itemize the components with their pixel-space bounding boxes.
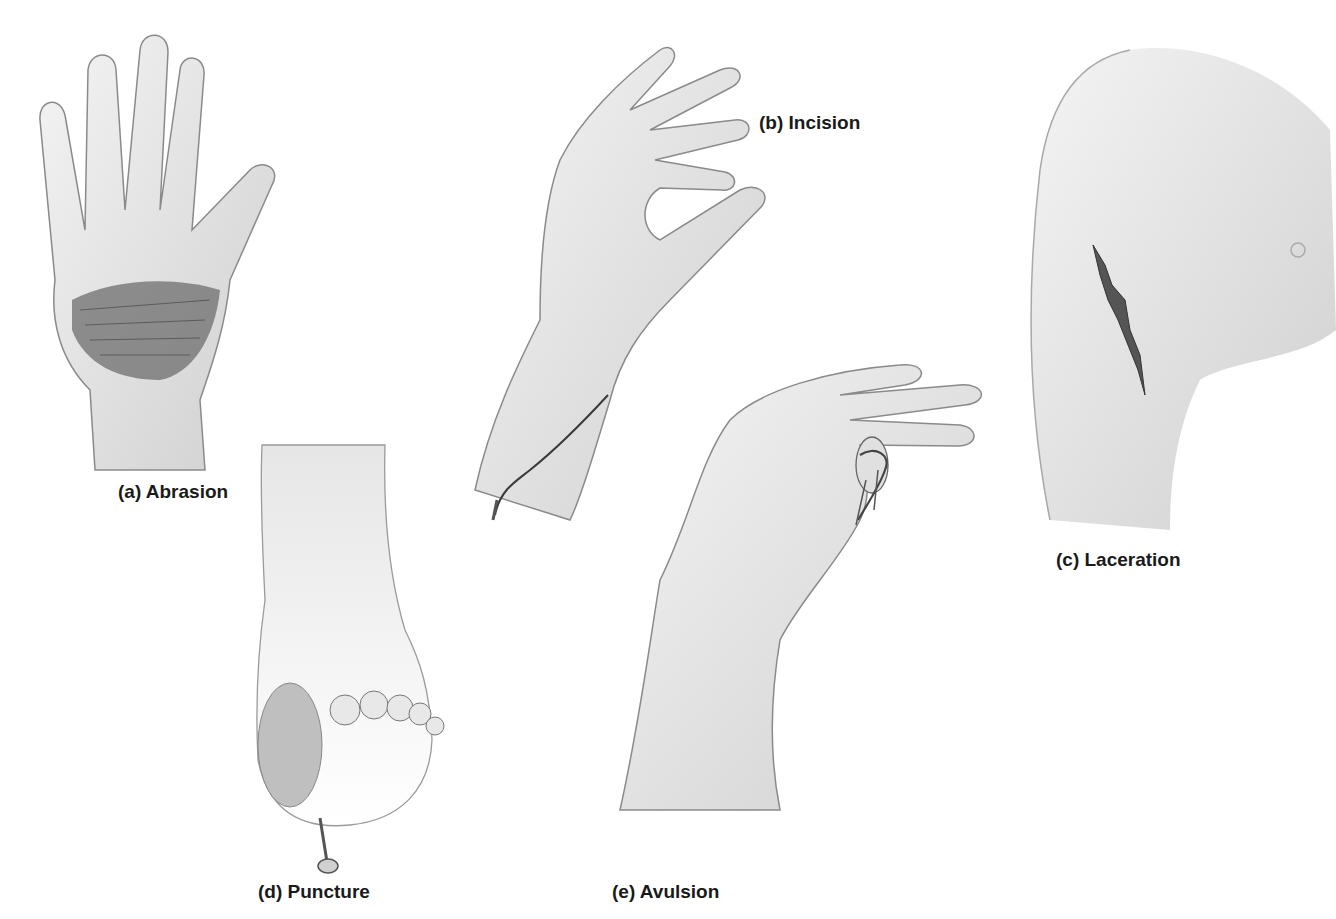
- label-avulsion: (e) Avulsion: [612, 881, 719, 903]
- label-abrasion: (a) Abrasion: [118, 481, 228, 503]
- avulsion-illustration: [620, 365, 981, 810]
- wound-types-figure: (a) Abrasion (b) Incision (c) Laceration…: [0, 0, 1336, 919]
- laceration-illustration: [1031, 48, 1336, 530]
- label-puncture: (d) Puncture: [258, 881, 370, 903]
- label-incision: (b) Incision: [759, 112, 860, 134]
- illustrations: [0, 0, 1336, 919]
- puncture-illustration: [257, 445, 444, 873]
- abrasion-illustration: [40, 35, 275, 470]
- label-laceration: (c) Laceration: [1056, 549, 1181, 571]
